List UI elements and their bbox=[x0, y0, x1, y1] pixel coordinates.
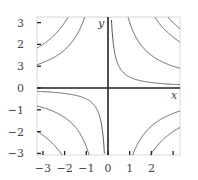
x-tick-label: −1 bbox=[78, 162, 94, 175]
contour-curve bbox=[37, 106, 89, 155]
y-tick-label: 2 bbox=[17, 38, 24, 51]
x-tick-label: 2 bbox=[148, 162, 155, 175]
y-tick-label: 0 bbox=[17, 82, 24, 95]
x-axis-label: x bbox=[171, 89, 178, 102]
y-tick-label: 3 bbox=[17, 17, 24, 30]
x-tick-label: −2 bbox=[56, 162, 72, 175]
y-tick-label: −3 bbox=[8, 147, 24, 160]
y-tick-label: 3 bbox=[17, 60, 24, 73]
contour-curve bbox=[150, 127, 180, 154]
contour-curve bbox=[37, 17, 85, 65]
contour-curve bbox=[111, 20, 180, 85]
contour-curve bbox=[37, 17, 68, 48]
y-axis-ticks: 3230−1−2−3 bbox=[8, 17, 41, 161]
y-tick-label: −2 bbox=[8, 126, 24, 139]
contour-curve bbox=[133, 111, 180, 155]
contour-curve bbox=[155, 17, 180, 42]
x-tick-label: 1 bbox=[126, 162, 133, 175]
y-tick-label: −1 bbox=[8, 104, 24, 117]
contour-curve bbox=[37, 131, 62, 155]
x-tick-label: −3 bbox=[35, 162, 51, 175]
contour-curve bbox=[128, 17, 180, 68]
contour-curve bbox=[168, 17, 180, 29]
x-tick-label: 0 bbox=[105, 162, 112, 175]
hyperbola-contour-plot: −3−2−1012 3230−1−2−3 y x bbox=[0, 0, 198, 180]
y-axis-label: y bbox=[97, 17, 105, 30]
